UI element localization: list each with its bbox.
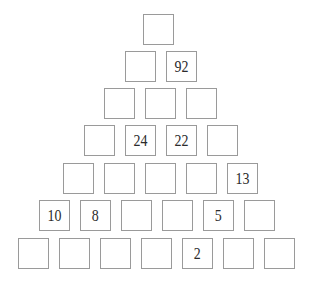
pyramid-cell-filled-r2c2[interactable]: 92 — [166, 51, 197, 82]
pyramid-row-5: 13 — [63, 163, 258, 194]
pyramid-cell-value: 2 — [194, 245, 201, 262]
pyramid-row-1 — [143, 14, 174, 45]
pyramid-cell-value: 22 — [175, 132, 189, 149]
pyramid-cell-filled-r6c1[interactable]: 10 — [39, 200, 70, 231]
pyramid-cell-empty-r2c1[interactable] — [125, 51, 156, 82]
pyramid-cell-empty-r5c4[interactable] — [186, 163, 217, 194]
pyramid-cell-value: 8 — [92, 207, 99, 224]
pyramid-cell-empty-r5c1[interactable] — [63, 163, 94, 194]
pyramid-cell-filled-r7c5[interactable]: 2 — [182, 238, 213, 269]
pyramid-cell-filled-r4c3[interactable]: 22 — [166, 125, 197, 156]
pyramid-cell-empty-r4c4[interactable] — [207, 125, 238, 156]
pyramid-cell-value: 13 — [236, 170, 250, 187]
pyramid-cell-value: 5 — [215, 207, 222, 224]
pyramid-cell-empty-r5c2[interactable] — [104, 163, 135, 194]
pyramid-cell-filled-r5c5[interactable]: 13 — [227, 163, 258, 194]
pyramid-cell-empty-r6c6[interactable] — [244, 200, 275, 231]
pyramid-cell-empty-r3c3[interactable] — [186, 88, 217, 119]
pyramid-cell-empty-r1c1[interactable] — [143, 14, 174, 45]
pyramid-row-3 — [104, 88, 217, 119]
pyramid-cell-filled-r6c5[interactable]: 5 — [203, 200, 234, 231]
pyramid-cell-empty-r6c3[interactable] — [121, 200, 152, 231]
pyramid-cell-empty-r7c1[interactable] — [18, 238, 49, 269]
pyramid-cell-empty-r4c1[interactable] — [84, 125, 115, 156]
pyramid-cell-value: 92 — [175, 58, 189, 75]
pyramid-row-7: 2 — [18, 238, 295, 269]
pyramid-cell-empty-r3c1[interactable] — [104, 88, 135, 119]
pyramid-cell-value: 24 — [134, 132, 148, 149]
pyramid-cell-empty-r7c3[interactable] — [100, 238, 131, 269]
pyramid-cell-empty-r7c4[interactable] — [141, 238, 172, 269]
pyramid-cell-value: 10 — [48, 207, 62, 224]
pyramid-row-4: 2422 — [84, 125, 238, 156]
pyramid-cell-empty-r7c6[interactable] — [223, 238, 254, 269]
pyramid-row-2: 92 — [125, 51, 197, 82]
pyramid-row-6: 1085 — [39, 200, 275, 231]
pyramid-cell-empty-r7c7[interactable] — [264, 238, 295, 269]
pyramid-cell-empty-r3c2[interactable] — [145, 88, 176, 119]
pyramid-cell-empty-r7c2[interactable] — [59, 238, 90, 269]
pyramid-cell-empty-r6c4[interactable] — [162, 200, 193, 231]
pyramid-cell-filled-r4c2[interactable]: 24 — [125, 125, 156, 156]
number-pyramid: 9224221310852 — [0, 0, 316, 282]
pyramid-cell-empty-r5c3[interactable] — [145, 163, 176, 194]
pyramid-cell-filled-r6c2[interactable]: 8 — [80, 200, 111, 231]
